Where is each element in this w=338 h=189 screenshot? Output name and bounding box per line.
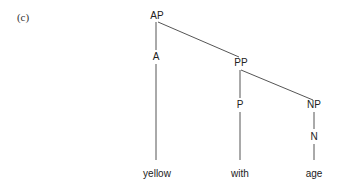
node-n: N: [310, 132, 317, 142]
node-pp: PP: [234, 58, 247, 68]
edge-ap-pp: [158, 22, 239, 57]
tree-edges: [0, 0, 338, 189]
edge-pp-np: [241, 70, 313, 100]
node-ap: AP: [150, 11, 163, 21]
node-np: NP: [307, 100, 321, 110]
node-a: A: [153, 52, 160, 62]
leaf-age: age: [306, 169, 323, 179]
leaf-yellow: yellow: [143, 169, 171, 179]
panel-label: (c): [17, 12, 29, 23]
leaf-with: with: [231, 169, 249, 179]
node-p: P: [237, 100, 244, 110]
